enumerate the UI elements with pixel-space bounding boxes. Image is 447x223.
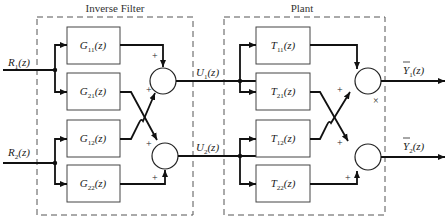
sum-junction-2: + + (146, 138, 178, 183)
block-t11: T11(z) (256, 27, 310, 64)
svg-text:+: + (337, 137, 343, 148)
svg-text:+: + (146, 138, 152, 149)
svg-text:+: + (345, 172, 351, 183)
svg-text:Y2(z): Y2(z) (403, 140, 425, 155)
block-t22: T22(z) (256, 165, 310, 202)
svg-text:+: + (152, 172, 158, 183)
svg-text:R1(z): R1(z) (7, 56, 30, 71)
svg-text:U1(z): U1(z) (196, 66, 219, 81)
output-y1: Y1(z) (381, 62, 445, 81)
svg-text:U2(z): U2(z) (196, 141, 219, 156)
output-y2: Y2(z) (381, 138, 445, 157)
svg-text:R2(z): R2(z) (7, 146, 30, 161)
input-r2: R2(z) (3, 139, 67, 184)
sum-junction-3: + × (337, 68, 381, 106)
block-g11: G11(z) (67, 27, 120, 64)
svg-text:+: + (152, 50, 158, 61)
plant-title: Plant (291, 2, 314, 14)
block-g21: G21(z) (67, 73, 120, 110)
block-diagram: Inverse Filter Plant G11(z) G21(z) G12(z… (0, 0, 447, 223)
sum-junction-4: + + (337, 137, 381, 183)
block-t21: T21(z) (256, 73, 310, 110)
block-g22: G22(z) (67, 165, 120, 202)
input-r1: R1(z) (3, 45, 67, 92)
block-g12: G12(z) (67, 120, 120, 157)
svg-text:×: × (373, 95, 379, 106)
svg-text:+: + (146, 84, 152, 95)
svg-text:+: + (337, 84, 343, 95)
svg-text:Y1(z): Y1(z) (403, 64, 425, 79)
block-t12: T12(z) (256, 120, 310, 157)
inverse-filter-title: Inverse Filter (86, 2, 145, 14)
sum-junction-1: + + (146, 50, 176, 95)
